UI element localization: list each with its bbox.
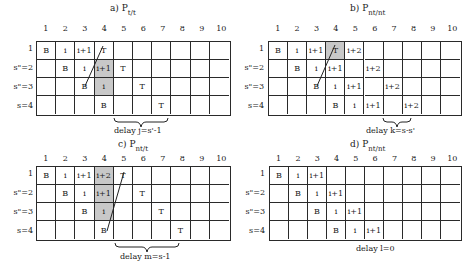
grid-cell	[422, 203, 441, 221]
grid-cell	[403, 221, 422, 239]
grid-cell: i	[346, 221, 365, 239]
grid-cell	[441, 221, 460, 239]
grid-cell	[365, 167, 384, 185]
grid-cell: i+1	[327, 185, 346, 203]
column-header: 6	[366, 154, 385, 163]
column-header: 8	[404, 154, 423, 163]
grid-cell	[422, 221, 441, 239]
grid-cell	[346, 185, 365, 203]
grid-cell: B	[308, 203, 327, 221]
grid-cell	[270, 185, 289, 203]
grid-cell: B	[327, 221, 346, 239]
grid-cell: i	[289, 167, 308, 185]
grid-cell: i	[327, 203, 346, 221]
grid-cell	[403, 167, 422, 185]
grid-cell	[365, 203, 384, 221]
grid-cell	[289, 221, 308, 239]
grid-cell	[327, 167, 346, 185]
column-header: 3	[308, 154, 327, 163]
grid-cell: i+1	[346, 203, 365, 221]
grid-cell: i+1	[308, 167, 327, 185]
grid-cell	[270, 203, 289, 221]
grid-d: Bii+1Bii+1Bii+1Bii+1	[269, 166, 462, 241]
grid-cell: i	[308, 185, 327, 203]
column-header: 7	[385, 154, 404, 163]
grid-cell	[422, 185, 441, 203]
column-header: 1	[269, 154, 288, 163]
grid-cell	[308, 221, 327, 239]
column-header: 5	[346, 154, 365, 163]
grid-cell: i+1	[365, 221, 384, 239]
grid-cell	[365, 185, 384, 203]
grid-cell	[346, 167, 365, 185]
grid-cell	[270, 221, 289, 239]
grid-cell	[384, 167, 403, 185]
grid-cell: B	[270, 167, 289, 185]
grid-cell	[441, 185, 460, 203]
row-header: 1	[235, 169, 265, 178]
grid-cell	[289, 203, 308, 221]
grid-cell	[441, 203, 460, 221]
grid-cell: B	[289, 185, 308, 203]
title-prefix: d) P	[350, 139, 368, 149]
grid-cell	[384, 185, 403, 203]
row-header: s"=2	[235, 188, 265, 197]
column-header: 4	[327, 154, 346, 163]
row-header: s=4	[235, 226, 265, 235]
delay-label-d: delay l=0	[356, 244, 395, 253]
column-header: 2	[288, 154, 307, 163]
panel-d: d) Pnt/nt Bii+1Bii+1Bii+1Bii+1 delay l=0…	[0, 0, 474, 273]
grid-cell	[441, 167, 460, 185]
grid-cell	[403, 203, 422, 221]
title-subscript: nt/nt	[368, 145, 385, 153]
grid-cell	[422, 167, 441, 185]
grid-cell	[384, 203, 403, 221]
grid-cell	[384, 221, 403, 239]
grid-cell	[403, 185, 422, 203]
column-header: 10	[443, 154, 462, 163]
column-header: 9	[423, 154, 442, 163]
panel-d-title: d) Pnt/nt	[350, 139, 385, 149]
row-header: s"=3	[235, 207, 265, 216]
